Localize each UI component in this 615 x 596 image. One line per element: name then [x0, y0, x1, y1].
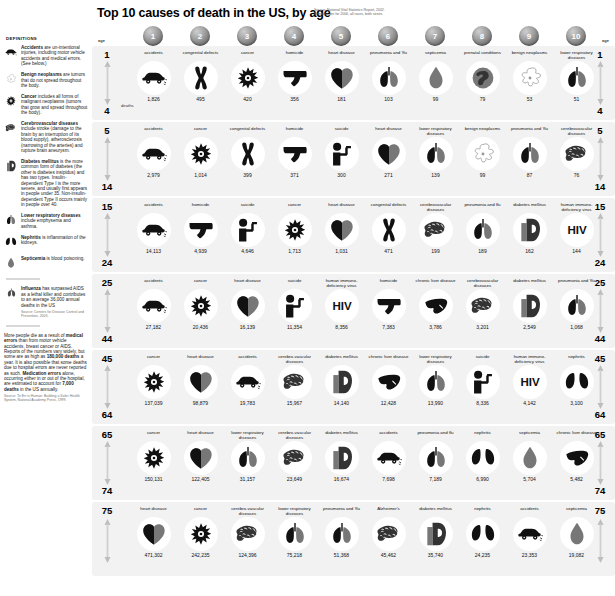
cause-deaths: 5,482: [553, 476, 600, 482]
cause-name: cancer: [224, 50, 271, 60]
cause-name: pneumonia and 'flu: [318, 506, 365, 516]
cause-name: suicide: [224, 202, 271, 212]
cause-cell[interactable]: cancer137,039: [130, 354, 177, 406]
cause-cell[interactable]: diabetes mellitus14,140: [318, 354, 365, 406]
cause-cell[interactable]: diabetes mellitus162: [506, 202, 553, 254]
cause-cell[interactable]: septicemia19,082: [553, 506, 600, 558]
cause-cell[interactable]: lower respiratory diseases75,218: [271, 506, 318, 558]
cause-cell[interactable]: suicide11,354: [271, 278, 318, 330]
accident-car-icon: [137, 289, 171, 323]
accident-car-icon: [137, 213, 171, 247]
cause-cell[interactable]: benign neoplasms53: [506, 50, 553, 102]
cause-deaths: 189: [459, 248, 506, 254]
cause-cell[interactable]: accidents1,826: [130, 50, 177, 102]
age-to: 14: [587, 182, 613, 192]
cause-cell[interactable]: cancer150,131: [130, 430, 177, 482]
cause-cell[interactable]: human immuno-deficiency virusHIV144: [553, 202, 600, 254]
cause-cell[interactable]: pneumonia and flu189: [459, 202, 506, 254]
cause-cell[interactable]: cerebrovascular diseases3,201: [459, 278, 506, 330]
cause-cell[interactable]: cerebrovascular diseases76: [553, 126, 600, 178]
cause-cell[interactable]: pneumonia and 'flu1,068: [553, 278, 600, 330]
cause-cell[interactable]: diabetes mellitus16,674: [318, 430, 365, 482]
chart-main: Top 10 causes of death in the US, by age…: [92, 0, 615, 596]
cause-cell[interactable]: human immuno-deficiency virusHIV4,142: [506, 354, 553, 406]
cause-cell[interactable]: heart disease181: [318, 50, 365, 102]
cause-cell[interactable]: cancer242,235: [177, 506, 224, 558]
cause-deaths: 98,879: [177, 400, 224, 406]
cause-cell[interactable]: cerebro-vascular diseases23,649: [271, 430, 318, 482]
accident-car-icon: [4, 45, 18, 61]
age-band-45-64: 45644564cancer137,039heart disease98,879…: [92, 350, 615, 424]
cause-cell[interactable]: prenatal conditions79: [459, 50, 506, 102]
rank-header-row: 12345678910: [92, 26, 615, 46]
cause-cell[interactable]: lower respiratory diseases51: [553, 50, 600, 102]
cause-cell[interactable]: heart disease122,405: [177, 430, 224, 482]
cause-cell[interactable]: suicide8,336: [459, 354, 506, 406]
cause-cell[interactable]: accidents7,698: [365, 430, 412, 482]
cause-cell[interactable]: accidents23,353: [506, 506, 553, 558]
age-arrow-icon: [104, 213, 111, 257]
cause-deaths: 16,674: [318, 476, 365, 482]
cause-cell[interactable]: heart disease98,879: [177, 354, 224, 406]
cause-cell[interactable]: homicide356: [271, 50, 318, 102]
cause-cell[interactable]: nephritis24,235: [459, 506, 506, 558]
cause-cell[interactable]: cancer420: [224, 50, 271, 102]
cause-cell[interactable]: pneumonia and 'flu103: [365, 50, 412, 102]
cause-cell[interactable]: homicide4,939: [177, 202, 224, 254]
cause-cell[interactable]: congenital defects471: [365, 202, 412, 254]
cause-cell[interactable]: pneumonia and 'flu51,368: [318, 506, 365, 558]
cause-cell[interactable]: cerebro-vascular diseases124,396: [224, 506, 271, 558]
cancer-cell-icon: [184, 137, 218, 171]
cause-cell[interactable]: lower respiratory diseases13,990: [412, 354, 459, 406]
cause-deaths: 12,428: [365, 400, 412, 406]
cause-name: lower respiratory diseases: [224, 430, 271, 440]
rank-badge-3: 3: [237, 26, 257, 46]
cause-cell[interactable]: chronic liver disease3,786: [412, 278, 459, 330]
cause-cell[interactable]: chronic liver disease12,428: [365, 354, 412, 406]
cause-cell[interactable]: accidents27,182: [130, 278, 177, 330]
cause-cell[interactable]: heart disease271: [365, 126, 412, 178]
cause-cell[interactable]: heart disease471,302: [130, 506, 177, 558]
cause-cell[interactable]: cancer1,014: [177, 126, 224, 178]
cause-cell[interactable]: accidents14,113: [130, 202, 177, 254]
cause-cell[interactable]: diabetes mellitus35,740: [412, 506, 459, 558]
cause-cell[interactable]: pneumonia and flu7,189: [412, 430, 459, 482]
cause-cell[interactable]: suicide4,646: [224, 202, 271, 254]
cause-deaths: 24,235: [459, 552, 506, 558]
influenza-term: Influenza: [21, 286, 41, 291]
cause-cell[interactable]: accidents2,979: [130, 126, 177, 178]
cause-deaths: 6,990: [459, 476, 506, 482]
cause-cell[interactable]: Alzheimer's45,462: [365, 506, 412, 558]
accident-car-icon: [513, 517, 547, 551]
cause-cell[interactable]: diabetes mellitus2,549: [506, 278, 553, 330]
cause-cell[interactable]: homicide7,383: [365, 278, 412, 330]
cause-cell[interactable]: cerebrovascular diseases199: [412, 202, 459, 254]
cause-cell[interactable]: cerebro-vascular diseases15,967: [271, 354, 318, 406]
cause-cell[interactable]: human immuno-deficiency virusHIV8,356: [318, 278, 365, 330]
cause-cell[interactable]: congenital defects495: [177, 50, 224, 102]
cause-cell[interactable]: homicide371: [271, 126, 318, 178]
age-from: 65: [94, 430, 120, 440]
rank-badge-10: 10: [566, 26, 586, 46]
cause-cell[interactable]: suicide300: [318, 126, 365, 178]
cause-cell[interactable]: nephritis3,100: [553, 354, 600, 406]
cause-cell[interactable]: nephritis6,990: [459, 430, 506, 482]
cause-cell[interactable]: heart disease16,139: [224, 278, 271, 330]
cause-cell[interactable]: benign neoplasms99: [459, 126, 506, 178]
cause-cell[interactable]: septicemia99: [412, 50, 459, 102]
cancer-cell-icon: [137, 365, 171, 399]
cause-cell[interactable]: septicemia5,704: [506, 430, 553, 482]
cause-cell[interactable]: congenital defects399: [224, 126, 271, 178]
cause-cell[interactable]: lower respiratory diseases31,157: [224, 430, 271, 482]
gun-icon: [372, 289, 406, 323]
cause-cell[interactable]: accidents19,783: [224, 354, 271, 406]
cause-name: cerebro-vascular diseases: [271, 354, 318, 364]
age-to: 44: [94, 334, 120, 344]
cause-cell[interactable]: heart disease1,031: [318, 202, 365, 254]
cause-cell[interactable]: cancer1,713: [271, 202, 318, 254]
cause-cell[interactable]: pneumonia and 'flu87: [506, 126, 553, 178]
cause-cell[interactable]: lower respiratory diseases139: [412, 126, 459, 178]
lungs-icon: [4, 213, 18, 229]
cause-cell[interactable]: cancer20,436: [177, 278, 224, 330]
cause-cell[interactable]: chronic liver disease5,482: [553, 430, 600, 482]
